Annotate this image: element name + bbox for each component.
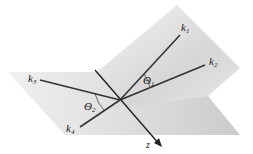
upper-plane xyxy=(97,5,240,108)
diagram-canvas: k1 k2 k3 k4 Θ1 Θ2 z xyxy=(0,0,253,154)
label-z-axis: z xyxy=(145,139,150,150)
